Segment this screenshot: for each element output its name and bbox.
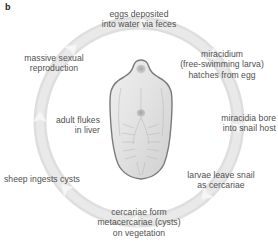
- stage-label-line: (free-swimming larva): [168, 59, 276, 69]
- stage-label-line: as cercariae: [166, 180, 276, 190]
- stage-label-line: adult flukes: [2, 115, 100, 125]
- stage-label-line: on vegetation: [74, 228, 204, 238]
- stage-label-line: into snail host: [176, 123, 276, 133]
- stage-label-line: eggs deposited: [76, 9, 202, 19]
- stage-label-line: metacercariae (cysts): [74, 217, 204, 227]
- stage-label-line: larvae leave snail: [166, 170, 276, 180]
- stage-label-line: reproduction: [4, 63, 104, 73]
- stage-label-line: in liver: [2, 125, 100, 135]
- stage-label-larvae-leave-snail: larvae leave snail as cercariae: [166, 170, 276, 191]
- liver-fluke-illustration: [104, 58, 178, 183]
- stage-label-line: hatches from egg: [168, 70, 276, 80]
- stage-label-sheep-ingests-cysts: sheep ingests cysts: [4, 174, 124, 184]
- oral-sucker: [136, 65, 145, 73]
- stage-label-line: miracidium: [168, 49, 276, 59]
- ventral-sucker: [137, 109, 145, 117]
- stage-label-line: into water via feces: [76, 19, 202, 29]
- stage-label-line: sheep ingests cysts: [4, 174, 124, 184]
- stage-label-miracidia-bore: miracidia bore into snail host: [176, 113, 276, 134]
- stage-label-line: massive sexual: [4, 53, 104, 63]
- stage-label-massive-sexual-reproduction: massive sexual reproduction: [4, 53, 104, 74]
- stage-label-adult-flukes: adult flukes in liver: [2, 115, 100, 136]
- stage-label-line: cercariae form: [74, 207, 204, 217]
- stage-label-line: miracidia bore: [176, 113, 276, 123]
- fluke-body: [110, 60, 172, 179]
- life-cycle-figure: b: [0, 0, 278, 246]
- stage-label-miracidium: miracidium (free-swimming larva) hatches…: [168, 49, 276, 80]
- stage-label-eggs-deposited: eggs deposited into water via feces: [76, 9, 202, 30]
- stage-label-cercariae-form: cercariae form metacercariae (cysts) on …: [74, 207, 204, 238]
